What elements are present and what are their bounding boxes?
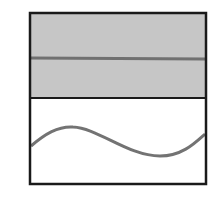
two-panel-diagram — [0, 0, 218, 198]
bottom-panel — [31, 98, 205, 184]
horizontal-line — [31, 58, 205, 59]
top-panel — [31, 13, 205, 98]
